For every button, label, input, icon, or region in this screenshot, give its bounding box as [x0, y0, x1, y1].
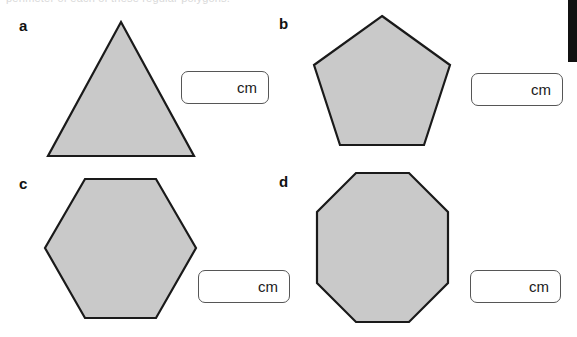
answer-box-d[interactable]: cm	[470, 270, 561, 303]
triangle-shape	[44, 17, 198, 161]
unit-label-a: cm	[237, 80, 268, 95]
unit-label-b: cm	[531, 82, 562, 97]
cut-off-heading-text: perimeter of each of these regular polyg…	[0, 0, 577, 9]
answer-box-a[interactable]: cm	[181, 71, 269, 104]
exercise-label-a: a	[19, 18, 27, 33]
unit-label-d: cm	[529, 279, 560, 294]
cut-off-heading-label: perimeter of each of these regular polyg…	[6, 0, 230, 4]
exercise-label-d: d	[279, 174, 288, 189]
exercise-label-c: c	[19, 176, 27, 191]
page-edge-artifact	[568, 0, 577, 62]
worksheet-page: perimeter of each of these regular polyg…	[0, 0, 577, 337]
pentagon-shape	[310, 12, 454, 164]
exercise-label-b: b	[279, 16, 288, 31]
unit-label-c: cm	[258, 279, 289, 294]
answer-box-b[interactable]: cm	[471, 73, 563, 106]
answer-box-c[interactable]: cm	[198, 270, 290, 303]
hexagon-shape	[41, 174, 200, 323]
octagon-shape	[309, 169, 456, 327]
